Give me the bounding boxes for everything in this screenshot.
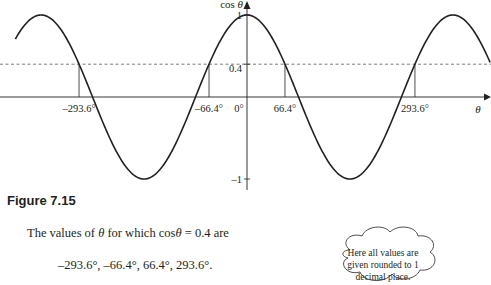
note-line: decimal place.: [343, 271, 423, 283]
note-line: given rounded to 1: [343, 259, 423, 271]
note-line: Here all values are: [343, 247, 423, 259]
thought-cloud: [0, 0, 491, 285]
note-text: Here all values are given rounded to 1 d…: [343, 247, 423, 283]
